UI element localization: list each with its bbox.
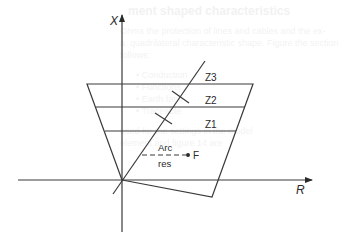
zone-3-label: Z3 xyxy=(205,72,217,83)
r-axis-label: R xyxy=(296,183,305,197)
arc-label: Arc xyxy=(158,142,173,153)
line-impedance-characteristic xyxy=(113,61,205,194)
x-axis-label: X xyxy=(109,14,119,28)
res-label: res xyxy=(158,158,171,169)
zone-boundary-tick xyxy=(155,113,172,124)
zone-boundary-tick xyxy=(172,91,189,103)
zone-2-label: Z2 xyxy=(205,95,217,106)
zone-1-label: Z1 xyxy=(205,119,217,130)
fault-point-icon xyxy=(186,153,190,157)
fault-label: F xyxy=(193,150,199,161)
